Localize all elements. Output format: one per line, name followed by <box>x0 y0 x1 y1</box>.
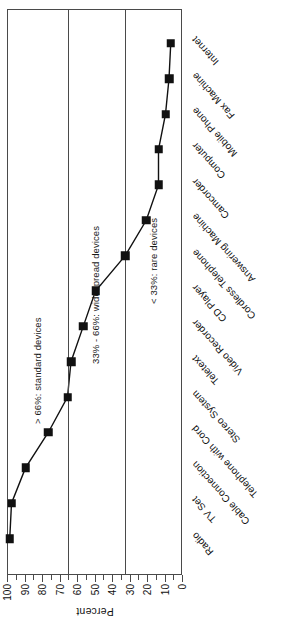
data-point-marker <box>63 393 72 402</box>
y-axis-minor-tick <box>103 575 104 580</box>
data-point-marker <box>44 428 53 437</box>
y-axis-minor-tick <box>156 575 157 580</box>
y-axis-tick <box>95 575 96 582</box>
y-axis-tick-label: 100 <box>2 584 13 606</box>
y-axis-minor-tick <box>51 575 52 580</box>
y-axis: 0102030405060708090100 <box>7 575 182 589</box>
y-axis-minor-tick <box>173 575 174 580</box>
y-axis-tick-label: 90 <box>19 584 30 606</box>
data-point-marker <box>21 464 30 473</box>
data-point-marker <box>142 216 151 225</box>
y-axis-tick <box>182 575 183 582</box>
data-point-marker <box>79 322 88 331</box>
data-point-marker <box>67 358 76 367</box>
rotated-chart-wrapper: Percent 0102030405060708090100 > 66%: st… <box>0 0 293 623</box>
zone-annotation: > 66%: standard devices <box>32 317 43 424</box>
reference-line <box>68 10 69 574</box>
data-point-marker <box>6 534 15 543</box>
y-axis-title-text: Percent <box>76 606 114 618</box>
data-point-marker <box>121 251 130 260</box>
y-axis-tick <box>7 575 8 582</box>
y-axis-minor-tick <box>16 575 17 580</box>
y-axis-tick-label: 50 <box>89 584 100 606</box>
y-axis-tick <box>130 575 131 582</box>
y-axis-minor-tick <box>138 575 139 580</box>
y-axis-tick <box>147 575 148 582</box>
y-axis-tick <box>60 575 61 582</box>
y-axis-tick <box>165 575 166 582</box>
y-axis-tick <box>77 575 78 582</box>
y-axis-minor-tick <box>33 575 34 580</box>
y-axis-title: Percent <box>7 605 182 619</box>
zone-annotation: < 33%: rare devices <box>148 218 159 304</box>
data-point-marker <box>154 145 163 154</box>
y-axis-tick-label: 0 <box>177 584 188 606</box>
y-axis-minor-tick <box>86 575 87 580</box>
y-axis-tick-label: 70 <box>54 584 65 606</box>
y-axis-tick <box>42 575 43 582</box>
y-axis-tick <box>25 575 26 582</box>
y-axis-tick-label: 20 <box>142 584 153 606</box>
reference-line <box>125 10 126 574</box>
y-axis-minor-tick <box>121 575 122 580</box>
data-point-marker <box>165 75 174 84</box>
chart-area: Percent 0102030405060708090100 > 66%: st… <box>0 0 293 623</box>
y-axis-tick-label: 80 <box>37 584 48 606</box>
data-point-marker <box>154 181 163 190</box>
y-axis-tick <box>112 575 113 582</box>
data-point-marker <box>167 39 176 48</box>
data-point-marker <box>91 287 100 296</box>
y-axis-tick-label: 30 <box>124 584 135 606</box>
plot-frame: > 66%: standard devices33% - 66%: widesp… <box>7 9 182 575</box>
chart-screenshot: Percent 0102030405060708090100 > 66%: st… <box>0 0 293 623</box>
y-axis-tick-label: 60 <box>72 584 83 606</box>
y-axis-minor-tick <box>68 575 69 580</box>
y-axis-tick-label: 40 <box>107 584 118 606</box>
data-point-marker <box>7 499 16 508</box>
data-point-marker <box>161 110 170 119</box>
y-axis-tick-label: 10 <box>159 584 170 606</box>
